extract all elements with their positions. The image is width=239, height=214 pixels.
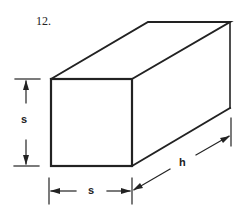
height-label: s	[21, 113, 27, 125]
front-face	[51, 79, 132, 166]
prism-diagram	[0, 0, 239, 214]
length-label: h	[179, 156, 186, 168]
top-face	[51, 22, 230, 79]
width-label: s	[88, 184, 94, 196]
figure: 12.	[0, 0, 239, 214]
